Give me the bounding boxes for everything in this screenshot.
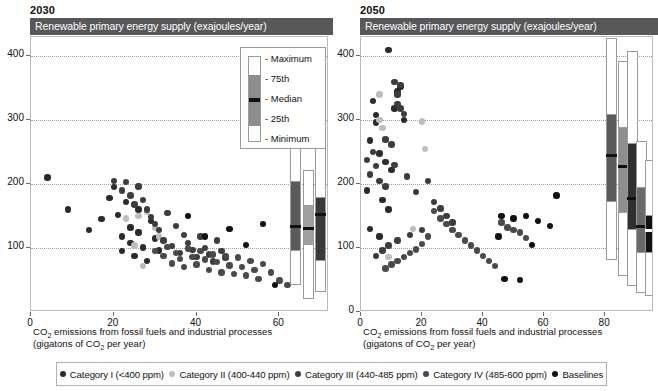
scatter-point xyxy=(164,210,170,216)
scatter-point xyxy=(272,282,278,288)
y-tick-label: 200 xyxy=(328,176,354,187)
scatter-point xyxy=(218,269,224,275)
legend-item[interactable]: Category II (400-440 ppm) xyxy=(167,369,291,380)
scatter-point xyxy=(202,233,208,239)
scatter-point xyxy=(214,237,220,243)
scatter-point xyxy=(140,263,146,269)
scatter-point xyxy=(160,253,166,259)
scatter-point xyxy=(131,242,137,248)
scatter-point xyxy=(169,260,175,266)
boxplot-iqr-box xyxy=(645,215,653,253)
key-label-maximum: - Maximum xyxy=(265,53,312,64)
legend-item[interactable]: Category I (<400 ppm) xyxy=(58,369,166,380)
scatter-point xyxy=(437,205,443,211)
boxplot xyxy=(606,38,617,259)
y-tick-mark xyxy=(26,247,30,248)
scatter-point xyxy=(173,223,179,229)
scatter-point xyxy=(226,262,232,268)
boxplot-median-line xyxy=(290,225,301,228)
scatter-point xyxy=(382,183,388,189)
scatter-point xyxy=(98,216,104,222)
scatter-point xyxy=(388,141,394,147)
scatter-point xyxy=(401,254,407,260)
scatter-point xyxy=(235,254,241,260)
scatter-point xyxy=(413,189,419,195)
y-tick-label: 100 xyxy=(0,240,24,251)
scatter-point xyxy=(431,208,437,214)
scatter-point xyxy=(260,221,266,227)
scatter-point xyxy=(385,47,391,53)
y-tick-label: 200 xyxy=(0,176,24,187)
scatter-point xyxy=(119,233,125,239)
scatter-point xyxy=(255,276,261,282)
legend-marker-icon xyxy=(295,371,301,377)
scatter-point xyxy=(379,197,385,203)
legend-item[interactable]: Category IV (485-600 ppm) xyxy=(421,369,549,380)
legend-item[interactable]: Baselines xyxy=(550,369,605,380)
scatter-point xyxy=(140,197,146,203)
scatter-point xyxy=(419,118,425,124)
key-bar xyxy=(248,56,261,142)
y-tick-mark xyxy=(356,247,360,248)
legend-item[interactable]: Category III (440-485 ppm) xyxy=(293,369,420,380)
y-tick-mark xyxy=(26,55,30,56)
scatter-point xyxy=(373,163,379,169)
scatter-point xyxy=(449,219,455,225)
legend-item-label: Category III (440-485 ppm) xyxy=(305,369,418,380)
scatter-point xyxy=(222,253,228,259)
scatter-point xyxy=(462,237,468,243)
scatter-point xyxy=(376,150,382,156)
scatter-point xyxy=(106,195,112,201)
scatter-point xyxy=(492,263,498,269)
y-tick-label: 100 xyxy=(328,240,354,251)
scatter-point xyxy=(193,261,199,267)
scatter-point xyxy=(231,271,237,277)
x-tick-mark xyxy=(543,312,544,316)
y-tick-mark xyxy=(356,119,360,120)
scatter-point xyxy=(413,246,419,252)
scatter-point xyxy=(367,171,373,177)
scatter-point xyxy=(86,227,92,233)
scatter-point xyxy=(391,162,397,168)
scatter-point xyxy=(111,178,117,184)
scatter-point xyxy=(376,91,382,97)
x-tick-mark xyxy=(30,312,31,316)
y-tick-label: 400 xyxy=(328,48,354,59)
scatter-point xyxy=(486,258,492,264)
x-tick-mark xyxy=(360,312,361,316)
y-tick-mark xyxy=(26,183,30,184)
scatter-point xyxy=(202,256,208,262)
x-tick-mark xyxy=(604,312,605,316)
scatter-point xyxy=(140,244,146,250)
boxplot xyxy=(290,141,301,286)
scatter-point xyxy=(401,117,407,123)
legend-marker-icon xyxy=(552,371,558,377)
scatter-point xyxy=(185,213,191,219)
scatter-point xyxy=(268,269,274,275)
panel-year-label-2050: 2050 xyxy=(360,4,385,16)
scatter-point xyxy=(370,98,376,104)
scatter-point xyxy=(385,254,391,260)
scatter-point xyxy=(127,224,133,230)
x-axis-caption-line2-2030: (gigatons of CO2 per year) xyxy=(33,338,145,354)
scatter-point xyxy=(443,213,449,219)
boxplot-iqr-box xyxy=(606,114,617,202)
scatter-point xyxy=(382,265,388,271)
scatter-point xyxy=(376,233,382,239)
scatter-point xyxy=(156,227,162,233)
scatter-point xyxy=(177,256,183,262)
panel-2030: 2030 Renewable primary energy supply (ex… xyxy=(0,0,330,352)
scatter-point xyxy=(437,215,443,221)
scatter-point xyxy=(480,253,486,259)
key-label-median: - Median xyxy=(265,93,302,104)
scatter-point xyxy=(385,242,391,248)
scatter-point xyxy=(404,173,410,179)
scatter-point xyxy=(443,221,449,227)
scatter-point xyxy=(547,223,553,229)
panel-title-2050: Renewable primary energy supply (exajoul… xyxy=(360,18,658,35)
boxplot xyxy=(645,160,653,296)
scatter-point xyxy=(206,267,212,273)
scatter-point xyxy=(495,233,501,239)
scatter-point xyxy=(517,277,523,283)
scatter-point xyxy=(553,192,559,198)
